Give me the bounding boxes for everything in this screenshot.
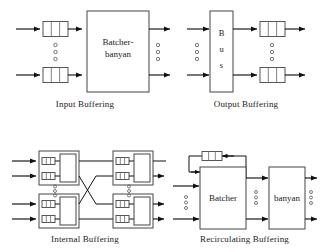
panel-input-buffering: Batcher- banyan (16, 11, 170, 92)
panel-output-buffering: B u s (187, 11, 305, 92)
internal-module-top-left (39, 151, 79, 185)
batcher-banyan-label-line2: banyan (105, 49, 131, 59)
caption-internal-buffering: Internal Buffering (0, 234, 170, 244)
panel-recirculating-buffering: Batcher banyan (173, 152, 317, 230)
caption-recirculating-buffering: Recirculating Buffering (172, 234, 317, 244)
internal-module-bottom-left (39, 194, 79, 228)
internal-module-top-right (113, 151, 153, 185)
bus-label-s: s (220, 60, 223, 70)
bus-label-b: B (219, 28, 225, 38)
batcher-label: Batcher (209, 193, 237, 203)
recirculating-output-ellipsis (310, 191, 313, 205)
recirculating-feedback-buffer (202, 152, 222, 161)
output-buffer-ellipsis (270, 43, 273, 60)
input-buffer-1 (43, 22, 68, 37)
internal-module-bottom-right (113, 194, 153, 228)
diagram-canvas: Batcher- banyan B u s (0, 0, 321, 252)
batcher-banyan-label-line1: Batcher- (103, 37, 134, 47)
banyan-label: banyan (274, 193, 300, 203)
caption-input-buffering: Input Buffering (0, 99, 170, 109)
figure-diagram: Batcher- banyan B u s (0, 0, 321, 252)
internal-crossbar-links (79, 161, 113, 219)
output-buffer-2 (260, 68, 285, 83)
input-ellipsis (54, 43, 57, 60)
panel-internal-buffering (12, 151, 166, 228)
recirculating-input-ellipsis (185, 196, 188, 210)
input-buffer-2 (43, 68, 68, 83)
recirculating-mid-ellipsis (255, 191, 258, 205)
caption-output-buffering: Output Buffering (176, 99, 316, 109)
bus-input-ellipsis (195, 43, 198, 60)
input-panel-output-ellipsis (156, 43, 159, 60)
output-buffer-1 (260, 22, 285, 37)
